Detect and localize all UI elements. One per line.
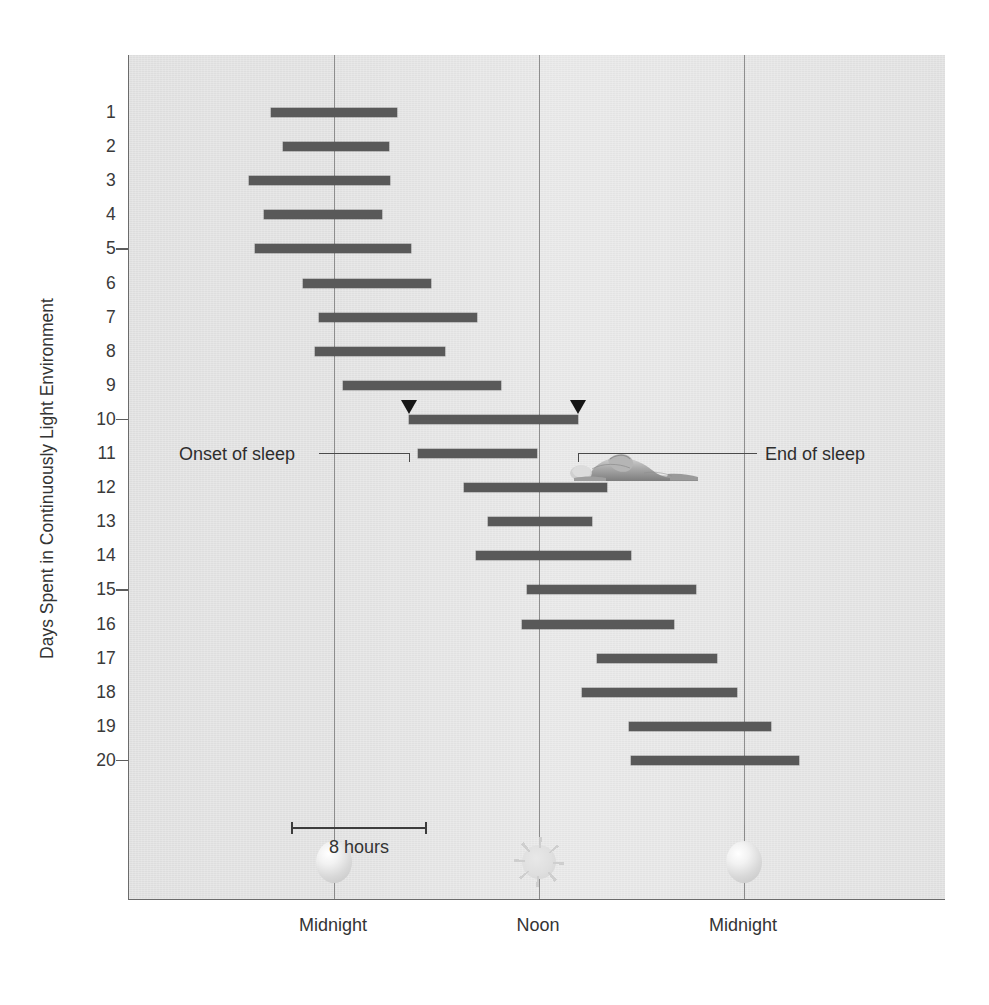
gridline-midnight-2 [744,55,745,899]
x-tick-label-1-noon: Noon [516,915,559,936]
sleep-bar-day-9 [343,381,502,390]
annotation-onset-leader-line [319,453,409,454]
scale-bar [291,827,427,829]
sleep-bar-day-12 [464,483,607,492]
y-tick-label-20: 20 [70,751,116,769]
y-tick-mark-15 [116,589,128,591]
sleep-bar-day-8 [315,347,445,356]
sleep-bar-day-2 [283,142,389,151]
moon-icon-midnight-right [726,841,762,883]
y-tick-label-9: 9 [70,376,116,394]
y-tick-label-7: 7 [70,308,116,326]
sleep-bar-day-13 [488,517,592,526]
y-tick-label-8: 8 [70,342,116,360]
y-tick-label-15: 15 [70,580,116,598]
y-tick-label-5: 5 [70,239,116,257]
sleep-bar-day-14 [476,551,631,560]
sleep-bar-day-4 [264,210,382,219]
y-tick-mark-5 [116,248,128,250]
y-tick-label-10: 10 [70,410,116,428]
sleep-bar-day-20 [631,756,798,765]
sun-icon-noon [522,845,556,879]
sleep-bar-day-10 [409,415,578,424]
annotation-onset-drop-line [409,453,410,462]
annotation-onset-arrow [401,400,417,414]
y-tick-label-4: 4 [70,205,116,223]
y-tick-label-18: 18 [70,683,116,701]
y-tick-label-19: 19 [70,717,116,735]
sleep-bar-day-18 [582,688,737,697]
y-tick-mark-10 [116,419,128,421]
y-tick-label-14: 14 [70,546,116,564]
sleep-bar-day-11 [418,449,538,458]
y-tick-label-13: 13 [70,512,116,530]
x-tick-label-0-midnight: Midnight [299,915,367,936]
annotation-onset-of-sleep: Onset of sleep [179,444,295,465]
sleep-bar-day-3 [249,176,391,185]
y-axis-title: Days Spent in Continuously Light Environ… [37,219,58,739]
plot-area: 8 hours Onset of sleep End of sleep [128,55,945,900]
annotation-end-arrow [570,400,586,414]
sleep-bar-day-5 [255,244,410,253]
y-tick-label-12: 12 [70,478,116,496]
annotation-end-of-sleep: End of sleep [765,444,865,465]
sleep-bar-day-19 [629,722,771,731]
x-tick-label-2-midnight: Midnight [709,915,777,936]
sleep-bar-day-6 [303,279,431,288]
y-tick-label-3: 3 [70,171,116,189]
annotation-end-drop-line [578,453,579,462]
actogram-figure: Days Spent in Continuously Light Environ… [0,0,989,1005]
sleep-bar-day-16 [522,620,674,629]
y-tick-label-1: 1 [70,103,116,121]
y-tick-mark-20 [116,760,128,762]
sleep-bar-day-15 [527,585,696,594]
annotation-end-leader-line [578,453,757,454]
scale-bar-cap-right [425,822,427,834]
scale-bar-label: 8 hours [291,837,427,858]
y-tick-label-11: 11 [70,444,116,462]
sleep-bar-day-1 [271,108,397,117]
y-tick-label-6: 6 [70,274,116,292]
scale-bar-cap-left [291,822,293,834]
sleep-bar-day-7 [319,313,478,322]
y-tick-label-16: 16 [70,615,116,633]
sleep-bar-day-17 [597,654,717,663]
y-tick-label-17: 17 [70,649,116,667]
y-tick-label-2: 2 [70,137,116,155]
gridline-noon-1 [539,55,540,899]
